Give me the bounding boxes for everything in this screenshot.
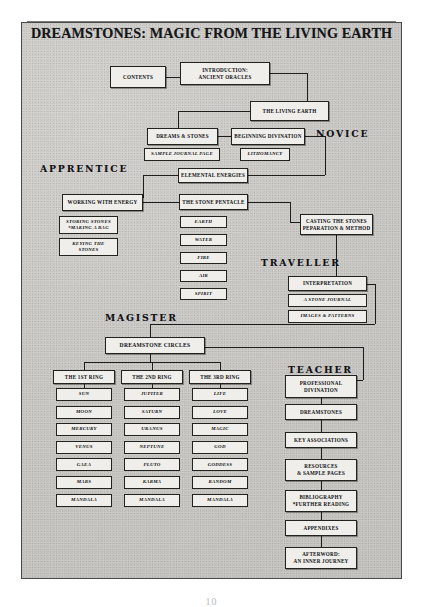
node-working-with-energy[interactable]: WORKING WITH ENERGY — [62, 194, 143, 211]
connector-introduction-right — [270, 73, 307, 74]
node-images-and-patterns[interactable]: IMAGES & PATTERNS — [288, 310, 367, 323]
teacher-item-key-associations[interactable]: KEY ASSOCIATIONS — [285, 432, 357, 448]
node-keying-the-stones[interactable]: KEYING THE STONES — [59, 238, 118, 256]
node-casting-the-stones[interactable]: CASTING THE STONES PEPARATION & METHOD — [300, 214, 373, 235]
connector-teacher-2 — [321, 448, 322, 459]
page-title: DREAMSTONES: MAGIC FROM THE LIVING EARTH — [21, 25, 402, 42]
rank-label-apprentice: APPRENTICE — [40, 163, 128, 174]
connector-interp-right — [367, 284, 375, 285]
connector-pentacle-right — [248, 202, 290, 203]
node-the-stone-pentacle[interactable]: THE STONE PENTACLE — [179, 194, 248, 210]
ring-item-first-ring-venus[interactable]: VENUS — [56, 441, 112, 454]
rank-label-teacher: TEACHER — [288, 364, 353, 375]
connector-teacher-1 — [321, 420, 322, 432]
connector-to-casting — [290, 222, 300, 223]
connector-to-circles — [150, 324, 375, 325]
ring-item-second-ring-uranus[interactable]: URANUS — [124, 423, 180, 436]
connector-teacher-4 — [321, 512, 322, 520]
page-number: 10 — [0, 596, 423, 607]
node-living-earth[interactable]: THE LIVING EARTH — [250, 101, 329, 121]
connector-elemental-left — [143, 175, 178, 176]
element-fire[interactable]: FIRE — [180, 252, 227, 264]
connector-ring3-drop — [220, 362, 221, 370]
node-a-stone-journal[interactable]: A STONE JOURNAL — [288, 294, 367, 307]
ring-item-first-ring-moon[interactable]: MOON — [56, 406, 112, 419]
connector-interp-down — [375, 284, 376, 324]
ring-item-second-ring-saturn[interactable]: SATURN — [124, 406, 180, 419]
connector-ring2-drop — [152, 362, 153, 370]
connector-elemental-down — [143, 175, 144, 198]
ring-item-third-ring-life[interactable]: LIFE — [192, 388, 248, 401]
ring-item-first-ring-mandala[interactable]: MANDALA — [56, 494, 112, 507]
book-page: DREAMSTONES: MAGIC FROM THE LIVING EARTH… — [0, 0, 423, 607]
connector-working-pentacle — [143, 202, 179, 203]
node-dreams-and-stones[interactable]: DREAMS & STONES — [147, 128, 218, 145]
ring-item-first-ring-mercury[interactable]: MERCURY — [56, 423, 112, 436]
connector-pentacle-down — [290, 202, 291, 222]
ring-item-first-ring-gaea[interactable]: GAEA — [56, 458, 112, 471]
teacher-item-appendixes[interactable]: APPENDIXES — [285, 520, 357, 536]
element-water[interactable]: WATER — [180, 234, 227, 246]
ring-item-third-ring-goddess[interactable]: GODDESS — [192, 458, 248, 471]
ring-item-second-ring-jupiter[interactable]: JUPITER — [124, 388, 180, 401]
connector-livingearth-down — [178, 111, 179, 128]
ring-item-third-ring-mandala[interactable]: MANDALA — [192, 494, 248, 507]
ring-item-first-ring-sun[interactable]: SUN — [56, 388, 112, 401]
ring-header-third-ring[interactable]: THE 3RD RING — [189, 370, 251, 384]
teacher-item-professional-divination[interactable]: PROFESSIONAL DIVINATION — [285, 375, 357, 398]
rank-label-novice: NOVICE — [316, 128, 369, 139]
connector-circles-down-left — [150, 354, 151, 362]
rank-label-magister: MAGISTER — [105, 312, 178, 323]
connector-livingearth-left — [178, 111, 250, 112]
ring-item-third-ring-love[interactable]: LOVE — [192, 406, 248, 419]
element-earth[interactable]: EARTH — [180, 216, 227, 228]
connector-contents-introduction — [166, 77, 180, 78]
connector-teacher-5 — [321, 536, 322, 547]
node-beginning-divination[interactable]: BEGINNING DIVINATION — [231, 128, 305, 145]
connector-ring1-drop — [84, 362, 85, 370]
node-interpretation[interactable]: INTERPRETATION — [288, 276, 367, 291]
rank-label-traveller: TRAVELLER — [261, 257, 341, 268]
teacher-item-bibliography-further-reading[interactable]: BIBLIOGRAPHY *FURTHER READING — [285, 490, 357, 512]
ring-item-third-ring-magic[interactable]: MAGIC — [192, 423, 248, 436]
ring-item-second-ring-mandala[interactable]: MANDALA — [124, 494, 180, 507]
ring-item-first-ring-mars[interactable]: MARS — [56, 476, 112, 489]
ring-item-second-ring-pluto[interactable]: PLUTO — [124, 458, 180, 471]
node-storing-stones[interactable]: STORING STONES *MAKING A BAG — [59, 216, 118, 234]
connector-dreams-beginning — [218, 136, 231, 137]
title-rule — [27, 21, 396, 22]
connector-teacher-down — [363, 347, 364, 380]
connector-introduction-down — [307, 73, 308, 102]
ring-item-third-ring-random[interactable]: RANDOM — [192, 476, 248, 489]
node-sample-journal-page[interactable]: SAMPLE JOURNAL PAGE — [144, 148, 220, 161]
connector-beginning-down — [325, 136, 326, 175]
connector-circles-right — [205, 347, 363, 348]
teacher-item-afterword[interactable]: AFTERWORD: AN INNER JOURNEY — [285, 547, 357, 569]
node-dreamstone-circles[interactable]: DREAMSTONE CIRCLES — [105, 337, 205, 354]
connector-to-elemental — [248, 175, 325, 176]
element-air[interactable]: AIR — [180, 270, 227, 282]
teacher-item-resources-sample-pages[interactable]: RESOURCES & SAMPLE PAGES — [285, 459, 357, 481]
ring-item-second-ring-karma[interactable]: KARMA — [124, 476, 180, 489]
ring-item-third-ring-god[interactable]: GOD — [192, 441, 248, 454]
node-lithomancy[interactable]: LITHOMANCY — [240, 148, 290, 161]
node-introduction[interactable]: INTRODUCTION: ANCIENT ORACLES — [180, 62, 270, 85]
teacher-item-dreamstones[interactable]: DREAMSTONES — [285, 404, 357, 420]
ring-header-first-ring[interactable]: THE 1ST RING — [53, 370, 115, 384]
ring-item-second-ring-neptune[interactable]: NEPTUNE — [124, 441, 180, 454]
element-spirit[interactable]: SPIRIT — [180, 288, 227, 300]
connector-teacher-3 — [321, 481, 322, 490]
node-contents[interactable]: CONTENTS — [110, 66, 166, 88]
ring-header-second-ring[interactable]: THE 2ND RING — [121, 370, 183, 384]
node-elemental-energies[interactable]: ELEMENTAL ENERGIES — [178, 168, 248, 183]
